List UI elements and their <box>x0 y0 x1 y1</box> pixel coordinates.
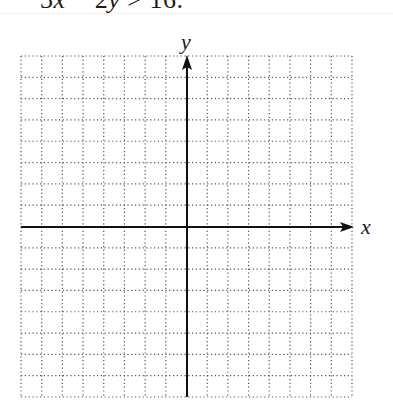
x-axis-label: x <box>360 214 371 239</box>
y-axis-label: y <box>179 29 191 54</box>
axes <box>21 55 354 397</box>
coordinate-plane[interactable]: x y <box>0 0 393 417</box>
